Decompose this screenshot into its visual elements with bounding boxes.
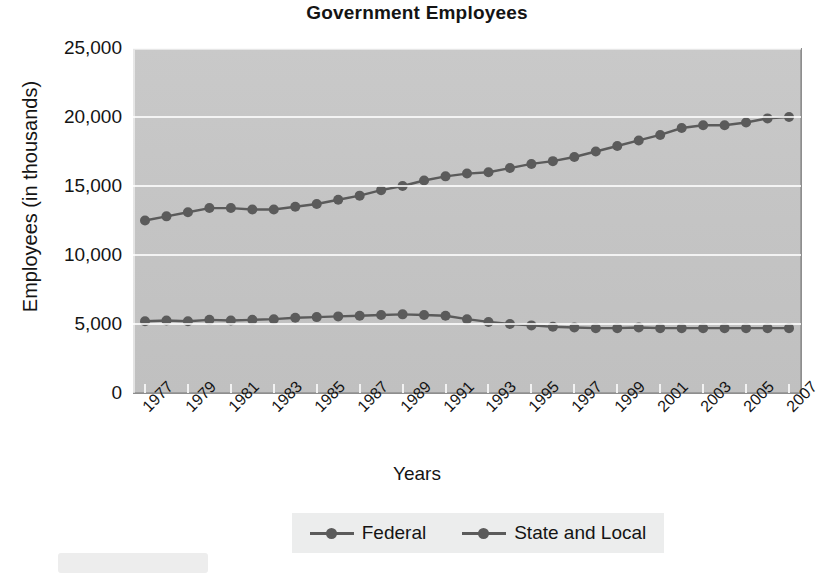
data-point-marker	[419, 175, 429, 185]
data-point-marker	[226, 203, 236, 213]
x-tick-mark	[316, 384, 318, 393]
y-tick-label: 10,000	[2, 244, 122, 266]
data-point-marker	[441, 311, 451, 321]
x-tick-mark	[144, 384, 146, 393]
data-point-marker	[140, 216, 150, 226]
gridline	[133, 185, 801, 187]
plot-area	[133, 48, 802, 394]
data-point-marker	[333, 195, 343, 205]
data-point-marker	[290, 313, 300, 323]
data-point-marker	[183, 207, 193, 217]
x-tick-mark	[745, 384, 747, 393]
data-point-marker	[634, 135, 644, 145]
data-point-marker	[548, 156, 558, 166]
x-tick-mark	[659, 384, 661, 393]
data-point-marker	[312, 199, 322, 209]
scan-artifact	[58, 553, 208, 573]
data-point-marker	[526, 159, 536, 169]
legend-item-state-and-local[interactable]: State and Local	[462, 522, 646, 544]
x-tick-mark	[702, 384, 704, 393]
data-point-marker	[333, 311, 343, 321]
chart-title: Government Employees	[0, 2, 834, 24]
data-point-marker	[290, 202, 300, 212]
data-point-marker	[591, 147, 601, 157]
x-axis-label: Years	[0, 463, 834, 485]
legend-marker-icon	[462, 526, 506, 540]
data-point-marker	[247, 204, 257, 214]
gridline	[133, 254, 801, 256]
x-tick-mark	[530, 384, 532, 393]
data-point-marker	[376, 310, 386, 320]
y-tick-label: 0	[2, 382, 122, 404]
legend-item-federal[interactable]: Federal	[310, 522, 426, 544]
chart-legend: Federal State and Local	[292, 513, 664, 553]
legend-label: State and Local	[514, 522, 646, 544]
data-point-marker	[269, 204, 279, 214]
x-tick-mark	[573, 384, 575, 393]
x-tick-mark	[187, 384, 189, 393]
data-point-marker	[441, 171, 451, 181]
x-tick-mark	[616, 384, 618, 393]
data-point-marker	[312, 312, 322, 322]
data-point-marker	[161, 211, 171, 221]
data-point-marker	[655, 130, 665, 140]
x-tick-mark	[445, 384, 447, 393]
gridline	[133, 48, 801, 49]
data-point-marker	[763, 113, 773, 123]
chart-figure: Government Employees Employees (in thous…	[0, 0, 834, 573]
data-point-marker	[741, 118, 751, 128]
data-point-marker	[483, 167, 493, 177]
gridline	[133, 323, 801, 325]
data-point-marker	[526, 320, 536, 330]
x-tick-mark	[402, 384, 404, 393]
data-point-marker	[355, 311, 365, 321]
x-tick-mark	[273, 384, 275, 393]
y-tick-label: 20,000	[2, 106, 122, 128]
legend-label: Federal	[362, 522, 426, 544]
gridline	[133, 116, 801, 118]
data-point-marker	[569, 152, 579, 162]
y-tick-label: 25,000	[2, 37, 122, 59]
x-tick-mark	[788, 384, 790, 393]
x-tick-mark	[487, 384, 489, 393]
x-tick-mark	[359, 384, 361, 393]
data-point-marker	[419, 310, 429, 320]
y-tick-label: 15,000	[2, 175, 122, 197]
data-point-marker	[677, 123, 687, 133]
data-point-marker	[698, 120, 708, 130]
data-point-marker	[204, 203, 214, 213]
x-tick-mark	[230, 384, 232, 393]
data-point-marker	[483, 317, 493, 327]
data-point-marker	[505, 163, 515, 173]
legend-marker-icon	[310, 526, 354, 540]
data-point-marker	[462, 169, 472, 179]
data-point-marker	[720, 120, 730, 130]
data-point-marker	[355, 191, 365, 201]
data-point-marker	[398, 309, 408, 319]
data-point-marker	[612, 141, 622, 151]
y-tick-label: 5,000	[2, 313, 122, 335]
series-lines	[133, 48, 801, 393]
